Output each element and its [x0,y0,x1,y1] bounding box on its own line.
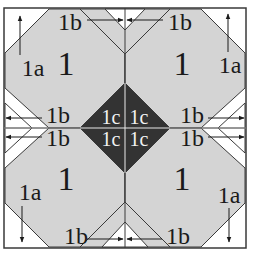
label-corner-top-right: 1a [219,52,242,78]
quilt-diagram: 1 1 1 1 1a 1a 1a 1a 1b 1b 1b 1b 1b 1b 1b… [0,0,256,257]
label-side-bottom-left: 1b [64,223,88,249]
label-side-top-left: 1b [58,9,82,35]
label-corner-bottom-left: 1a [19,179,42,205]
label-center-bottom-right: 1c [130,128,149,150]
label-side-bottom-right: 1b [166,223,190,249]
label-main-top-left: 1 [58,45,75,82]
label-center-bottom-left: 1c [102,128,121,150]
label-side-mid-left-bottom: 1b [46,125,70,151]
label-side-top-right: 1b [168,9,192,35]
label-side-mid-right-bottom: 1b [180,125,204,151]
label-main-bottom-left: 1 [58,160,75,197]
label-center-top-right: 1c [130,106,149,128]
label-corner-top-left: 1a [22,55,45,81]
label-corner-bottom-right: 1a [218,182,241,208]
label-center-top-left: 1c [102,106,121,128]
label-main-bottom-right: 1 [174,160,191,197]
label-main-top-right: 1 [174,45,191,82]
